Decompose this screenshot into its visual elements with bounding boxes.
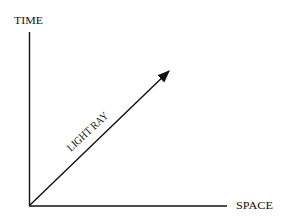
space-axis-label: SPACE [236,199,273,211]
time-axis-label: TIME [14,14,43,26]
light-ray-label: LIGHT RAY [64,109,110,153]
light-ray-arrow [30,71,169,205]
spacetime-diagram: TIME SPACE LIGHT RAY [0,0,294,220]
